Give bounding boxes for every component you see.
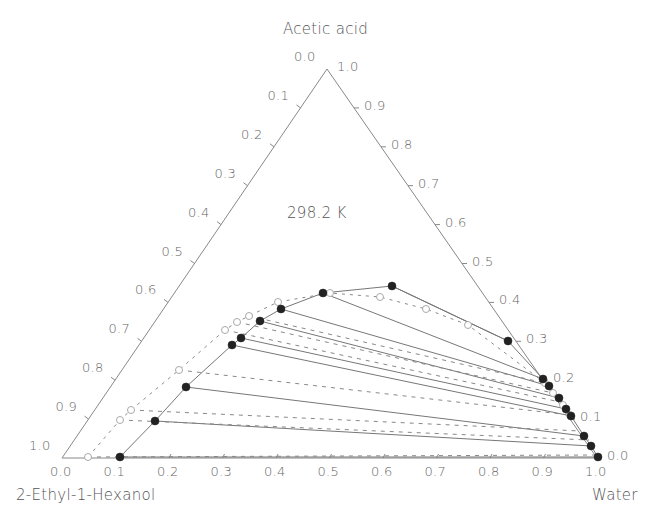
right-axis-tick-label: 0.6	[445, 215, 467, 230]
right-axis-tick-label: 0.2	[553, 370, 575, 385]
right-axis-tick-label: 0.3	[526, 331, 548, 346]
bottom-axis-tick-label: 0.1	[104, 464, 126, 479]
right-axis-tick-label: 0.7	[418, 176, 440, 191]
bottom-axis-tick-label: 0.4	[264, 464, 286, 479]
bottom-axis-tick-label: 1.0	[585, 464, 607, 479]
bottom-axis-tick-label: 0.6	[371, 464, 393, 479]
bottom-axis-tick-label: 0.0	[50, 464, 72, 479]
left-axis-tick-label: 0.3	[215, 166, 237, 181]
triangle-frame	[62, 69, 597, 458]
right-axis-tick-label: 0.1	[580, 409, 602, 424]
left-axis-tick-label: 0.9	[56, 399, 78, 414]
right-axis-tick-label: 0.9	[364, 98, 386, 113]
right-axis-tick-label: 0.8	[391, 137, 413, 152]
left-axis-tick-label: 0.1	[268, 88, 290, 103]
right-axis-tick-label: 0.4	[499, 292, 521, 307]
component-label-top: Acetic acid	[283, 20, 368, 38]
left-axis-tick-label: 0.6	[135, 282, 157, 297]
left-axis-tick-label: 0.0	[294, 49, 316, 64]
bottom-axis-tick-label: 0.8	[478, 464, 500, 479]
ternary-chart	[0, 0, 663, 527]
left-axis-tick-label: 0.2	[241, 127, 263, 142]
bottom-axis-tick-label: 0.2	[157, 464, 179, 479]
bottom-axis-tick-label: 0.3	[211, 464, 233, 479]
left-axis-tick-label: 0.7	[109, 321, 131, 336]
left-axis-tick-label: 0.5	[162, 244, 184, 259]
tie-lines	[88, 286, 598, 457]
left-axis-tick-label: 0.4	[188, 205, 210, 220]
bottom-axis-tick-label: 0.5	[318, 464, 340, 479]
right-axis-tick-label: 1.0	[337, 59, 359, 74]
left-axis-tick-label: 0.8	[82, 360, 104, 375]
temperature-annotation: 298.2 K	[287, 204, 347, 222]
bottom-axis-tick-label: 0.9	[532, 464, 554, 479]
right-axis-tick-label: 0.5	[472, 254, 494, 269]
component-label-bottom-left: 2-Ethyl-1-Hexanol	[16, 486, 156, 504]
bottom-axis-tick-label: 0.7	[425, 464, 447, 479]
component-label-bottom-right: Water	[592, 486, 638, 504]
right-axis-tick-label: 0.0	[607, 448, 629, 463]
left-axis-tick-label: 1.0	[29, 438, 51, 453]
